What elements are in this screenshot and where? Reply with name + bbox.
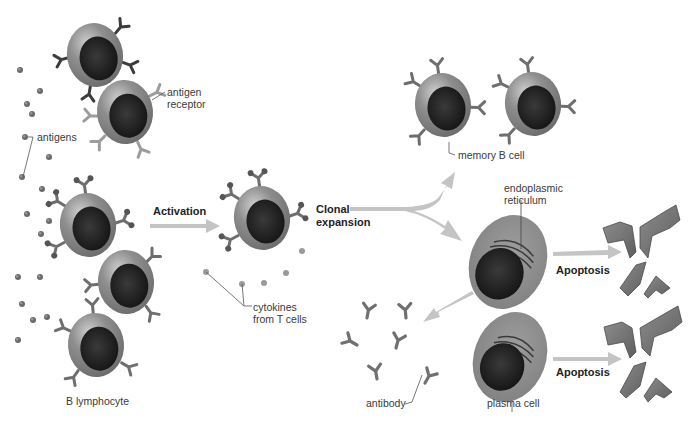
label-activation: Activation [153, 205, 206, 217]
antibodies [342, 303, 437, 386]
label-er-2: reticulum [504, 194, 547, 206]
label-clonal-expansion-1: Clonal [316, 203, 350, 215]
label-b-lymphocyte: B lymphocyte [66, 395, 129, 407]
label-plasma-cell: plasma cell [487, 397, 540, 409]
plasma-cell-bottom [460, 301, 559, 412]
secretion-arrow [423, 291, 474, 322]
label-antigen-receptor-1: antigen [167, 86, 201, 98]
label-cytokines-2: from T cells [253, 313, 307, 325]
label-clonal-expansion-2: expansion [316, 216, 370, 228]
apoptosis-arrow-bottom [553, 352, 622, 366]
clonal-expansion-arrow [350, 172, 462, 241]
label-antigen-receptor-2: receptor [167, 98, 206, 110]
memory-b-cell-1 [400, 54, 489, 146]
label-apoptosis-top: Apoptosis [556, 264, 610, 276]
b-cell-bound-antigens [35, 170, 138, 263]
plasma-cell-top [456, 204, 560, 320]
activation-arrow [150, 219, 220, 233]
apoptosis-arrow-top [553, 245, 622, 259]
label-memory-b-cell: memory B cell [458, 149, 525, 161]
b-cell-light-receptors [81, 77, 171, 162]
label-antigens: antigens [37, 131, 77, 143]
label-er-1: endoplasmic [504, 182, 563, 194]
apoptotic-fragments-bottom [604, 306, 682, 402]
memory-b-cell-2 [490, 53, 579, 145]
cytokine-dots [203, 248, 305, 287]
label-apoptosis-bottom: Apoptosis [556, 366, 610, 378]
label-antibody: antibody [366, 397, 406, 409]
activated-b-cell [209, 163, 312, 256]
label-cytokines-1: cytokines [253, 301, 297, 313]
